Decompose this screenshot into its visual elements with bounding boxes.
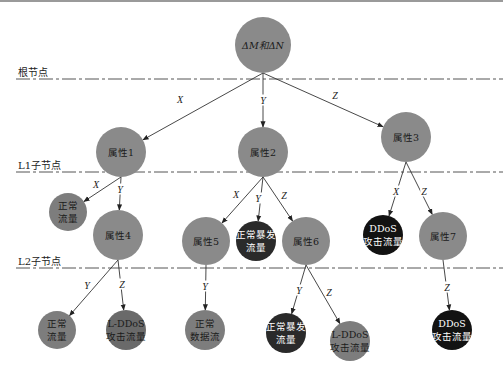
tree-node-normal1: 正常流量 <box>49 193 87 231</box>
node-label: 属性6 <box>293 235 319 248</box>
node-label: 数据流 <box>190 330 220 343</box>
edge-label: Z <box>331 90 339 101</box>
tree-node-ddos2: DDoS攻击流量 <box>432 310 472 350</box>
tree-node-root: ΔM和ΔN <box>235 17 291 73</box>
edge-arrow <box>406 162 432 215</box>
tree-node-lddos2: L-DDoS攻击流量 <box>330 321 370 361</box>
node-label: 正常 <box>58 199 78 212</box>
edge-label: Y <box>259 95 267 106</box>
edge-arrow <box>263 177 293 221</box>
tree-node-burst1: 正常暴发流量 <box>236 221 276 261</box>
edge-label: Z <box>443 282 451 293</box>
node-label: 属性4 <box>105 229 131 242</box>
tree-node-attr1: 属性1 <box>96 127 146 177</box>
edge-label: Y <box>83 280 91 291</box>
node-label: ΔM和ΔN <box>242 39 284 52</box>
edge-label: Y <box>295 285 303 296</box>
node-label: L-DDoS <box>330 328 370 341</box>
tree-node-attr4: 属性4 <box>93 210 143 260</box>
tree-node-attr3: 属性3 <box>381 112 431 162</box>
tree-node-normal2: 正常流量 <box>38 311 76 349</box>
tree-node-burst2: 正常暴发流量 <box>266 313 306 353</box>
tree-node-ddos1: DDoS攻击流量 <box>363 215 403 255</box>
node-label: 正常 <box>190 317 220 330</box>
node-label: 流量 <box>236 241 276 254</box>
edge-arrow <box>263 73 383 127</box>
edge-label: X <box>232 189 240 200</box>
tree-node-attr2: 属性2 <box>238 127 288 177</box>
edge-label: Z <box>420 186 428 197</box>
node-label: 属性7 <box>430 230 456 243</box>
node-label: 攻击流量 <box>330 341 370 354</box>
node-label: L-DDoS <box>106 317 146 330</box>
decision-tree-diagram: 根节点L1子节点L2子节点 ΔM和ΔN属性1属性2属性3正常流量属性4属性5正常… <box>0 0 503 375</box>
node-label: 流量 <box>58 212 78 225</box>
level-label: L2子节点 <box>18 253 61 268</box>
edge-label: X <box>92 179 100 190</box>
tree-node-normaldata: 正常数据流 <box>185 310 225 350</box>
node-label: DDoS <box>432 317 472 330</box>
node-label: 属性3 <box>393 131 419 144</box>
edge-label: X <box>392 186 400 197</box>
node-label: DDoS <box>363 222 403 235</box>
tree-node-attr6: 属性6 <box>282 217 330 265</box>
edge-label: Z <box>280 190 288 201</box>
node-label: 属性2 <box>250 146 276 159</box>
edge-label: Y <box>201 281 209 292</box>
edge-label: Z <box>118 279 126 290</box>
node-label: 流量 <box>47 330 67 343</box>
node-label: 正常 <box>47 317 67 330</box>
tree-node-attr7: 属性7 <box>419 212 467 260</box>
level-label: 根节点 <box>18 64 48 79</box>
edge-label: Z <box>325 287 333 298</box>
node-label: 属性5 <box>193 235 219 248</box>
node-label: 攻击流量 <box>106 330 146 343</box>
edge-arrow <box>143 73 263 140</box>
edge-arrow <box>306 265 340 324</box>
edge-label: X <box>176 94 184 105</box>
node-label: 流量 <box>266 333 306 346</box>
tree-node-lddos1: L-DDoS攻击流量 <box>106 310 146 350</box>
tree-node-attr5: 属性5 <box>182 217 230 265</box>
node-label: 攻击流量 <box>432 330 472 343</box>
level-label: L1子节点 <box>18 157 61 172</box>
node-label: 攻击流量 <box>363 235 403 248</box>
edge-label: Y <box>116 184 124 195</box>
node-label: 正常暴发 <box>266 320 306 333</box>
node-label: 正常暴发 <box>236 228 276 241</box>
node-label: 属性1 <box>108 146 134 159</box>
edge-label: Y <box>254 193 262 204</box>
